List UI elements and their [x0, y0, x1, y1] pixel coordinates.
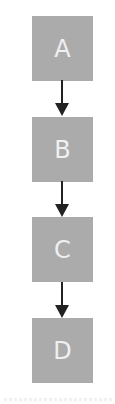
arrow-c-to-d — [54, 282, 70, 319]
node-a: A — [32, 16, 93, 81]
node-b: B — [32, 117, 93, 182]
node-a-label: A — [54, 35, 70, 63]
arrow-down-icon — [54, 282, 70, 319]
node-c-label: C — [54, 236, 71, 264]
node-b-label: B — [54, 136, 70, 164]
arrow-a-to-b — [54, 80, 70, 117]
node-d: D — [32, 318, 93, 383]
node-c: C — [32, 217, 93, 282]
node-d-label: D — [53, 337, 71, 365]
arrow-b-to-c — [54, 181, 70, 218]
arrow-down-icon — [54, 80, 70, 117]
arrow-down-icon — [54, 181, 70, 218]
cropped-footer-artifact — [4, 398, 112, 401]
